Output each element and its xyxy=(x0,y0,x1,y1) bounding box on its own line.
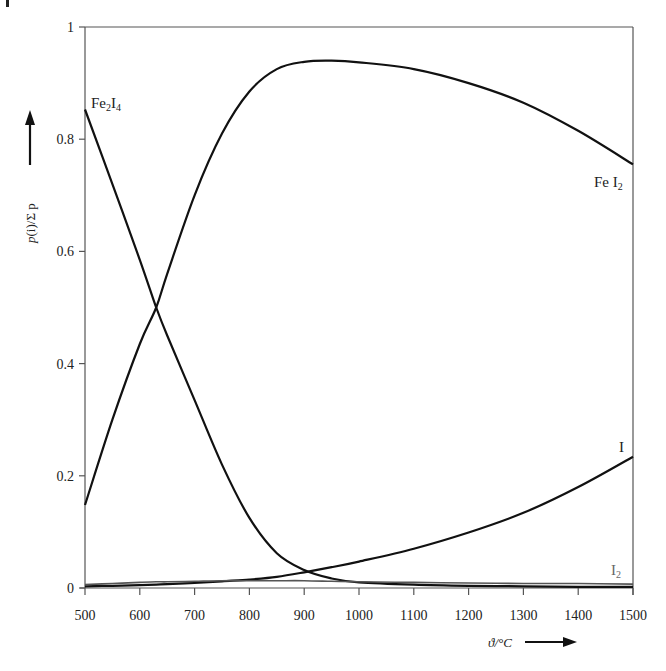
x-tick-label: 800 xyxy=(239,608,260,623)
y-tick-label: 0.4 xyxy=(57,357,75,372)
svg-text:ϑ/°C: ϑ/°C xyxy=(488,635,512,650)
svg-text:p(i)/Σ p: p(i)/Σ p xyxy=(23,203,38,244)
y-tick-label: 0.6 xyxy=(57,244,75,259)
x-tick-label: 1200 xyxy=(455,608,483,623)
label-i: I xyxy=(619,439,624,455)
x-tick-label: 900 xyxy=(294,608,315,623)
y-tick-label: 0 xyxy=(67,581,74,596)
curve-fe2i4 xyxy=(85,110,633,587)
curve-i xyxy=(85,457,633,587)
label-fe2i4: Fe2I4 xyxy=(91,95,121,113)
y-tick-label: 0.8 xyxy=(57,132,75,147)
curve-fei2 xyxy=(85,61,633,505)
x-axis-ticks: 500600700800900100011001200130014001500 xyxy=(75,588,648,623)
x-tick-label: 1100 xyxy=(400,608,427,623)
y-axis-ticks: 00.20.40.60.81 xyxy=(57,20,86,596)
x-tick-label: 1000 xyxy=(345,608,373,623)
x-tick-label: 1300 xyxy=(509,608,537,623)
x-tick-label: 500 xyxy=(75,608,96,623)
label-fei2: Fe I2 xyxy=(594,174,623,192)
x-tick-label: 600 xyxy=(129,608,150,623)
x-tick-label: 1500 xyxy=(619,608,647,623)
label-i2: I2 xyxy=(611,562,621,580)
line-chart: 500600700800900100011001200130014001500 … xyxy=(0,0,666,671)
x-tick-label: 1400 xyxy=(564,608,592,623)
arrow-right-icon xyxy=(563,637,577,647)
data-curves xyxy=(85,61,633,587)
y-tick-label: 1 xyxy=(67,20,74,35)
y-tick-label: 0.2 xyxy=(57,469,75,484)
x-tick-label: 700 xyxy=(184,608,205,623)
arrow-up-icon xyxy=(25,110,35,125)
plot-frame xyxy=(80,27,633,595)
y-axis-title: p(i)/Σ p xyxy=(23,110,38,244)
x-axis-title: ϑ/°C xyxy=(488,635,577,650)
